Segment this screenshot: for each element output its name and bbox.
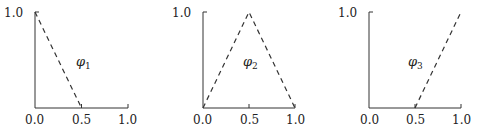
- chart-phi-1: 1.0 φ1 0.0 0.5 1.0: [4, 6, 137, 127]
- basis-function-charts: 1.0 φ1 0.0 0.5 1.0 1.0 φ2 0.0 0.5 1.0 1.…: [0, 0, 484, 127]
- y-tick-label-1.0: 1.0: [172, 6, 191, 20]
- y-tick-label-1.0: 1.0: [4, 6, 23, 20]
- x-tick-label-1.0: 1.0: [118, 113, 137, 127]
- x-tick-label-1.0: 1.0: [452, 113, 471, 127]
- x-tick-label-0.5: 0.5: [72, 113, 91, 127]
- x-tick-label-0.5: 0.5: [240, 113, 259, 127]
- chart-phi-2: 1.0 φ2 0.0 0.5 1.0: [172, 6, 305, 127]
- x-tick-label-0.5: 0.5: [406, 113, 425, 127]
- chart-phi-3: 1.0 φ3 0.0 0.5 1.0: [338, 6, 471, 127]
- x-tick-label-0.0: 0.0: [193, 113, 212, 127]
- x-tick-label-0.0: 0.0: [360, 113, 379, 127]
- x-tick-label-0.0: 0.0: [25, 113, 44, 127]
- phi-3-curve: [415, 12, 461, 108]
- y-tick-label-1.0: 1.0: [338, 6, 357, 20]
- phi-1-label: φ1: [76, 54, 91, 71]
- x-tick-label-1.0: 1.0: [286, 113, 305, 127]
- phi-3-label: φ3: [408, 54, 423, 71]
- phi-1-curve: [35, 12, 82, 108]
- phi-2-label: φ2: [243, 54, 258, 71]
